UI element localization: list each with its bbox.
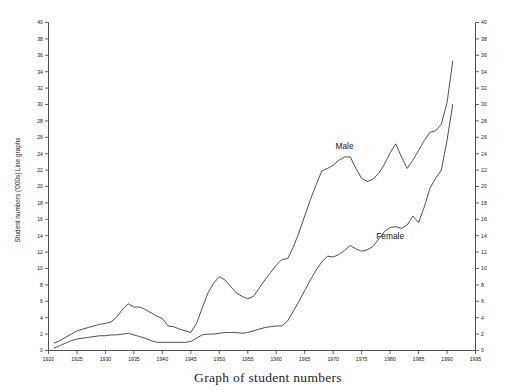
y-axis-left: 0246810121416182022242628303234363840: [37, 19, 48, 353]
y-tick-label-left: 18: [37, 200, 43, 206]
y-tick-label-left: 32: [37, 85, 43, 91]
series-line-female: [54, 105, 453, 349]
y-tick-label-right: 22: [481, 167, 487, 173]
y-axis-title: Student numbers ('000s) Line graphs: [14, 138, 22, 243]
series-label-male: Male: [335, 141, 353, 151]
y-tick-label-left: 20: [37, 183, 43, 189]
y-tick-label-right: 18: [481, 200, 487, 206]
series-label-female: Female: [376, 231, 404, 241]
x-tick-label: 1985: [413, 356, 425, 362]
y-tick-label-left: 12: [37, 249, 43, 255]
y-tick-label-left: 22: [37, 167, 43, 173]
y-tick-label-right: 20: [481, 183, 487, 189]
y-tick-label-right: 2: [481, 331, 484, 337]
y-tick-label-left: 34: [37, 69, 43, 75]
y-tick-label-left: 24: [37, 151, 43, 157]
y-tick-label-left: 6: [40, 298, 43, 304]
x-tick-label: 1920: [43, 356, 55, 362]
series-line-male: [54, 61, 453, 343]
y-tick-label-right: 16: [481, 216, 487, 222]
y-tick-label-right: 14: [481, 233, 487, 239]
y-tick-label-right: 26: [481, 134, 487, 140]
y-tick-label-right: 32: [481, 85, 487, 91]
x-tick-label: 1970: [327, 356, 339, 362]
y-tick-label-right: 24: [481, 151, 487, 157]
y-tick-label-right: 30: [481, 101, 487, 107]
y-tick-label-right: 40: [481, 19, 487, 25]
x-tick-label: 1925: [71, 356, 83, 362]
x-tick-label: 1990: [441, 356, 453, 362]
y-tick-label-left: 36: [37, 52, 43, 58]
y-axis-right: 0246810121416182022242628303234363840: [476, 19, 487, 353]
y-tick-label-left: 26: [37, 134, 43, 140]
y-tick-label-left: 10: [37, 265, 43, 271]
y-tick-label-right: 6: [481, 298, 484, 304]
x-tick-label: 1935: [128, 356, 140, 362]
data-series-group: [54, 61, 453, 348]
y-tick-label-left: 40: [37, 19, 43, 25]
y-tick-label-left: 0: [40, 347, 43, 353]
y-tick-label-left: 28: [37, 118, 43, 124]
y-tick-label-right: 12: [481, 249, 487, 255]
y-tick-label-right: 10: [481, 265, 487, 271]
x-axis: 1920192519301935194019451950195519601965…: [43, 351, 482, 363]
y-tick-label-left: 30: [37, 101, 43, 107]
x-tick-label: 1940: [157, 356, 169, 362]
y-tick-label-left: 4: [40, 315, 43, 321]
chart-title: Graph of student numbers: [194, 370, 342, 385]
y-tick-label-left: 14: [37, 233, 43, 239]
x-tick-label: 1930: [100, 356, 112, 362]
y-tick-label-right: 8: [481, 282, 484, 288]
y-tick-label-left: 16: [37, 216, 43, 222]
y-tick-label-right: 28: [481, 118, 487, 124]
y-tick-label-right: 34: [481, 69, 487, 75]
y-tick-label-left: 38: [37, 36, 43, 42]
y-tick-label-right: 38: [481, 36, 487, 42]
y-tick-label-left: 8: [40, 282, 43, 288]
x-tick-label: 1950: [214, 356, 226, 362]
line-chart-svg: 0246810121416182022242628303234363840 02…: [0, 0, 523, 392]
x-tick-label: 1995: [470, 356, 482, 362]
x-tick-label: 1975: [356, 356, 368, 362]
y-tick-label-left: 2: [40, 331, 43, 337]
x-tick-label: 1960: [270, 356, 282, 362]
series-annotations: MaleFemale: [335, 141, 404, 241]
x-tick-label: 1980: [384, 356, 396, 362]
y-tick-label-right: 4: [481, 315, 484, 321]
chart-figure: 0246810121416182022242628303234363840 02…: [0, 0, 523, 392]
x-tick-label: 1955: [242, 356, 254, 362]
x-tick-label: 1965: [299, 356, 311, 362]
x-tick-label: 1945: [185, 356, 197, 362]
y-tick-label-right: 36: [481, 52, 487, 58]
y-tick-label-right: 0: [481, 347, 484, 353]
